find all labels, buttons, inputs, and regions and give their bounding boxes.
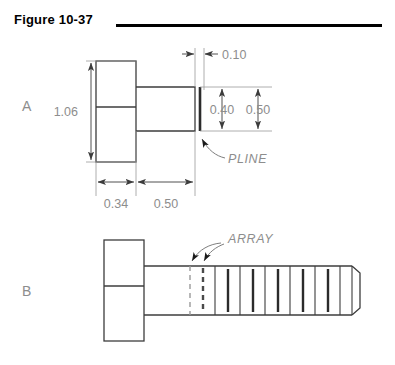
figure-page: Figure 10-37 A B: [0, 0, 395, 365]
array-leader-line-1: [192, 243, 221, 261]
dimension-text-0-50-h: 0.50: [154, 197, 178, 211]
bolt-head-outline: [96, 61, 136, 162]
bolt-b-head-outline: [104, 240, 144, 341]
bolt-b-chamfered-end: [352, 266, 360, 315]
pline-label: PLINE: [228, 152, 267, 166]
dimension-1-06: 1.06: [54, 61, 136, 162]
dimension-0-10: 0.10: [182, 48, 246, 90]
dimension-text-0-10: 0.10: [222, 48, 246, 62]
dimension-text-0-40: 0.40: [210, 103, 234, 117]
array-label: ARRAY: [227, 232, 274, 246]
view-b-geometry: [104, 240, 360, 341]
dimension-text-0-50-v: 0.50: [246, 103, 270, 117]
pline-annotation: PLINE: [202, 139, 267, 166]
thread-array: [215, 266, 352, 315]
dimension-bottom-group: 0.34 0.50: [96, 131, 195, 211]
array-annotation: ARRAY: [192, 232, 274, 261]
pline-leader-line: [202, 139, 225, 158]
bolt-shank-outline: [136, 87, 195, 131]
dimension-text-0-34: 0.34: [104, 197, 128, 211]
view-a-geometry: [96, 61, 200, 162]
dimension-right-group: 0.40 0.50: [200, 87, 272, 131]
dimension-text-1-06: 1.06: [54, 105, 78, 119]
technical-drawing: 1.06 0.34 0.50 0.10 0.40 0.50: [0, 0, 395, 365]
